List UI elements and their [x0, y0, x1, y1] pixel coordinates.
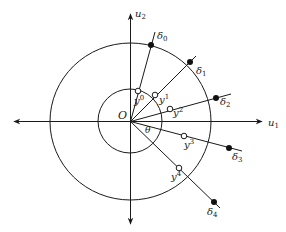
- filled-point-delta1: [187, 59, 193, 65]
- ray-4: y4δ4: [131, 122, 221, 220]
- open-point-y0: [135, 88, 141, 94]
- u2-label: u2: [135, 8, 146, 21]
- ray-2: y2δ2: [131, 94, 232, 122]
- origin-label: O: [118, 109, 127, 122]
- delta2-label: δ2: [220, 96, 231, 109]
- delta4-label: δ4: [207, 206, 218, 219]
- open-point-y3: [181, 133, 187, 139]
- filled-point-delta2: [213, 95, 219, 101]
- theta-label: θ: [145, 125, 151, 135]
- y0-label: y0: [133, 94, 144, 106]
- y2-label: y2: [172, 106, 183, 118]
- y4-label: y4: [170, 170, 182, 182]
- delta0-label: δ0: [157, 30, 168, 43]
- ray-line: [131, 122, 221, 209]
- open-point-y1: [152, 92, 158, 98]
- y1-label: y1: [158, 93, 169, 105]
- y3-label: y3: [183, 138, 194, 150]
- filled-point-delta0: [148, 42, 154, 48]
- filled-point-delta4: [211, 199, 217, 205]
- polar-diagram: y0δ0y1δ1y2δ2y3δ3y4δ4 u1 u2 O θ: [0, 0, 286, 232]
- ray-0: y0δ0: [131, 30, 168, 122]
- open-point-y2: [167, 106, 173, 112]
- delta1-label: δ1: [196, 65, 207, 78]
- delta3-label: δ3: [232, 151, 243, 164]
- u1-label: u1: [268, 117, 279, 130]
